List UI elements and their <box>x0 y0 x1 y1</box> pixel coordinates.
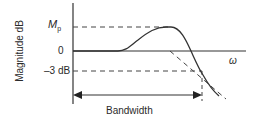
minus3db-label: –3 dB <box>44 66 70 76</box>
mp-label: Mp <box>48 19 61 32</box>
arrowhead-left-icon <box>73 91 82 99</box>
bandwidth-diagram: Magnitude dB Mp 0 –3 dB ω Bandwidth <box>0 0 259 120</box>
arrowhead-right-icon <box>193 91 202 99</box>
bandwidth-label: Bandwidth <box>106 106 153 116</box>
response-curve <box>73 27 219 96</box>
diagram-canvas <box>0 0 259 120</box>
zero-label: 0 <box>58 46 64 56</box>
omega-label: ω <box>229 56 237 66</box>
mp-label-sub: p <box>57 25 61 32</box>
y-axis-label: Magnitude dB <box>14 20 25 82</box>
mp-label-main: M <box>48 18 57 30</box>
asymptote-dashed <box>170 51 226 99</box>
